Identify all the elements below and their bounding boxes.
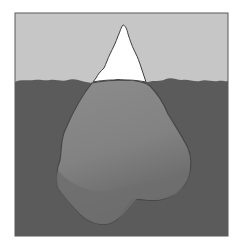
iceberg-illustration	[0, 0, 238, 248]
